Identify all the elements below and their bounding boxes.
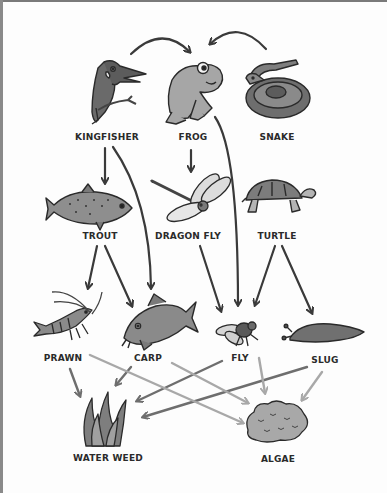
dragonfly-icon (152, 170, 234, 226)
label-frog: FROG (179, 132, 208, 142)
label-kingfisher: KINGFISHER (75, 132, 139, 142)
label-algae: ALGAE (261, 454, 295, 464)
arrow-trout-prawn (88, 246, 97, 288)
water-weed-icon (84, 392, 126, 446)
arrow-turtle-fly (255, 246, 275, 305)
label-fly: FLY (231, 353, 249, 363)
label-prawn: PRAWN (44, 353, 83, 363)
label-carp: CARP (134, 353, 162, 363)
arrow-fly-algae (259, 358, 265, 393)
prawn-icon (34, 292, 102, 340)
kingfisher-icon (92, 61, 146, 124)
arrow-trout-carp (105, 246, 132, 306)
food-web-diagram: KINGFISHER FROG SNAKE TROUT DRAGON FLY T… (0, 0, 387, 493)
label-trout: TROUT (82, 231, 117, 241)
turtle-icon (242, 180, 316, 212)
carp-icon (122, 294, 198, 350)
frog-icon (166, 63, 223, 125)
arrow-dragonfly-fly (200, 246, 221, 311)
arrow-snake-frog (210, 32, 266, 49)
snake-icon (246, 60, 310, 118)
slug-icon (282, 324, 364, 342)
trout-icon (46, 184, 132, 230)
arrow-prawn-waterweed (70, 369, 80, 396)
label-slug: SLUG (311, 355, 338, 365)
food-web-canvas (0, 0, 387, 493)
arrow-kingfisher-frog (131, 38, 190, 54)
label-water-weed: WATER WEED (73, 453, 143, 463)
arrow-turtle-slug (282, 246, 312, 313)
label-dragonfly: DRAGON FLY (155, 231, 221, 241)
fly-icon (215, 322, 258, 347)
algae-icon (247, 401, 308, 442)
label-turtle: TURTLE (257, 231, 296, 241)
arrow-slug-algae (302, 372, 322, 400)
arrow-frog-fly (215, 117, 238, 305)
label-snake: SNAKE (259, 132, 294, 142)
